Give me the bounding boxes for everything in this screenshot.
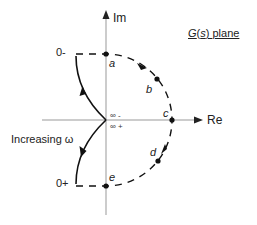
point-b [154, 76, 159, 81]
nyquist-curve-negative-freq [76, 56, 106, 120]
plane-title: G(s) plane [188, 28, 239, 39]
real-axis-arrow-icon [194, 117, 203, 124]
point-c-label: c [163, 108, 169, 119]
point-a [103, 51, 108, 56]
inf-plus-label: ∞ + [110, 123, 123, 131]
nyquist-diagram: Im Re G(s) plane a b c d e 0- 0+ ∞ - ∞ +… [0, 0, 257, 225]
zero-plus-label: 0+ [56, 178, 69, 189]
point-c [169, 117, 174, 122]
increasing-omega-annotation: Increasing ω [11, 134, 73, 145]
point-e-label: e [109, 172, 115, 183]
arc-arrow-lower-icon [161, 144, 167, 154]
real-axis-label: Re [207, 114, 222, 126]
inf-minus-label: ∞ - [110, 112, 121, 120]
imaginary-axis-label: Im [113, 12, 126, 24]
point-d-label: d [150, 147, 156, 158]
point-b-label: b [146, 84, 152, 95]
point-e [103, 183, 108, 188]
point-d [155, 158, 160, 163]
point-a-label: a [109, 58, 115, 69]
zero-minus-label: 0- [56, 47, 66, 58]
imaginary-axis-arrow-icon [103, 10, 110, 19]
